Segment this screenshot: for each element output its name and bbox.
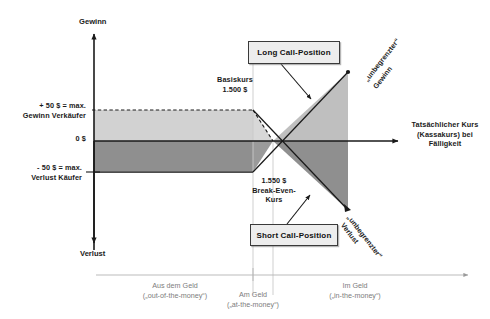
- max-loss-buyer-label: - 50 $ = max. Verlust Käufer: [0, 163, 82, 182]
- y-axis-title-top: Gewinn: [79, 17, 106, 26]
- y-axis-title-bottom: Verlust: [80, 249, 105, 258]
- x-axis-title-line1: Tatsächlicher Kurs: [402, 120, 488, 130]
- moneyness-at-the-money: Am Geld („at-the-money“): [206, 290, 300, 311]
- break-even-line2: Break-Even-: [243, 186, 305, 196]
- x-axis-title-line2: (Kassakurs) bei: [402, 130, 488, 140]
- diagram-canvas: Gewinn Verlust + 50 $ = max. Gewinn Verk…: [0, 0, 490, 319]
- strike-price-line2: 1.500 $: [195, 85, 275, 95]
- moneyness-at-title: Am Geld: [206, 290, 300, 300]
- x-axis-title-line3: Fälligkeit: [402, 139, 488, 149]
- max-profit-seller-line2: Gewinn Verkäufer: [0, 111, 86, 121]
- max-loss-buyer-line2: Verlust Käufer: [0, 173, 82, 183]
- moneyness-at-sub: („at-the-money“): [206, 300, 300, 310]
- moneyness-in-the-money: Im Geld („in-the-money“): [290, 281, 420, 302]
- profit-endpoint-marker: [346, 70, 350, 74]
- moneyness-in-sub: („in-the-money“): [290, 291, 420, 301]
- max-profit-seller-label: + 50 $ = max. Gewinn Verkäufer: [0, 101, 86, 120]
- long-call-position-box[interactable]: Long Call-Position: [248, 41, 340, 64]
- break-even-line1: 1.550 $: [243, 176, 305, 186]
- break-even-line3: Kurs: [243, 195, 305, 205]
- short-call-position-box[interactable]: Short Call-Position: [250, 224, 338, 246]
- long-call-leader-arrow: [281, 64, 311, 99]
- max-profit-seller-line1: + 50 $ = max.: [0, 101, 86, 111]
- zero-label: 0 $: [0, 134, 86, 144]
- moneyness-in-title: Im Geld: [290, 281, 420, 291]
- strike-price-label: Basiskurs 1.500 $: [195, 75, 275, 94]
- max-loss-buyer-line1: - 50 $ = max.: [0, 163, 82, 173]
- break-even-label: 1.550 $ Break-Even- Kurs: [243, 176, 305, 205]
- strike-price-line1: Basiskurs: [195, 75, 275, 85]
- x-axis-title: Tatsächlicher Kurs (Kassakurs) bei Fälli…: [402, 120, 488, 149]
- payoff-diagram-svg: [0, 0, 490, 319]
